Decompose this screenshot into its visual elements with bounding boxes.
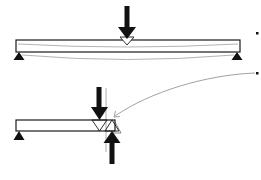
beam-diagram	[0, 0, 261, 180]
bullet-marker-bottom-icon	[256, 72, 259, 75]
bullet-marker-top-icon	[256, 32, 259, 35]
